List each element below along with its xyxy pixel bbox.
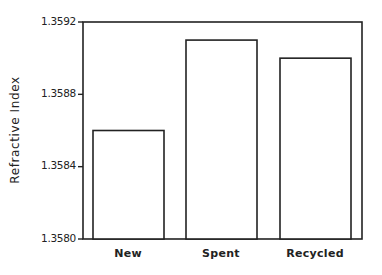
y-tick-label: 1.3592: [16, 15, 76, 27]
y-tick-label: 1.3584: [16, 159, 76, 171]
y-axis-label: Refractive Index: [8, 60, 22, 200]
x-category-label: Spent: [176, 247, 266, 260]
x-category-label: New: [83, 247, 173, 260]
y-tick-label: 1.3580: [16, 232, 76, 244]
bar-chart: Refractive Index 1.3592 1.3588 1.3584 1.…: [0, 0, 382, 275]
bar-new: [93, 131, 164, 240]
bar-recycled: [280, 58, 351, 239]
y-tick-label: 1.3588: [16, 87, 76, 99]
x-category-label: Recycled: [270, 247, 360, 260]
bar-spent: [186, 40, 257, 239]
